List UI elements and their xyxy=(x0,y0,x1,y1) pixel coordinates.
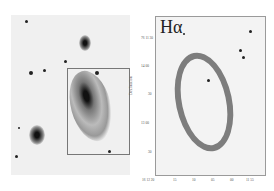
y-tick-label: 76 11 30 xyxy=(141,36,153,40)
y-tick-label: 13 00 xyxy=(141,121,149,125)
optical-image-panel xyxy=(11,15,130,175)
x-tick-label: 11 55 xyxy=(246,178,254,182)
star xyxy=(25,20,28,23)
y-tick-label: 30 xyxy=(148,92,152,96)
halpha-label: Hα xyxy=(160,17,182,38)
star xyxy=(43,69,46,72)
y-axis-title: Declination xyxy=(128,76,133,95)
companion-galaxy-top xyxy=(79,35,91,51)
x-tick-label: 15 xyxy=(173,178,177,182)
x-tick-label: 10 xyxy=(192,178,196,182)
star xyxy=(18,127,20,129)
star xyxy=(239,49,242,52)
star xyxy=(183,33,185,35)
star xyxy=(15,155,18,158)
y-tick-label: 30 xyxy=(148,150,152,154)
companion-galaxy-bottom xyxy=(29,125,45,145)
x-tick-label: 00 xyxy=(230,178,234,182)
region-box xyxy=(67,68,130,155)
y-tick-label: 14 00 xyxy=(141,64,149,68)
star xyxy=(249,30,252,33)
star xyxy=(64,60,67,63)
halpha-ring xyxy=(166,47,242,156)
halpha-image-panel xyxy=(155,16,266,176)
x-tick-label: 05 xyxy=(211,178,215,182)
star xyxy=(242,56,245,59)
star xyxy=(29,71,33,75)
x-tick-label: 16 12 20 xyxy=(142,178,154,182)
star xyxy=(207,79,210,82)
